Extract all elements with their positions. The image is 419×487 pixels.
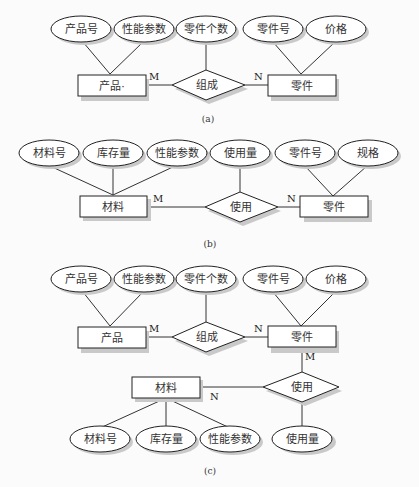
cardinality-m: M [153,193,163,204]
entity-material: 材料 [132,377,203,402]
svg-text:产品号: 产品号 [65,272,98,286]
entity-product: 产品 [78,327,149,353]
er-diagram-figure: 产品号 性能参数 零件个数 零件号 价格 产品· [0,0,419,487]
svg-text:零件号: 零件号 [257,23,290,36]
relationship-use: 使用 [263,372,342,406]
attr-price: 价格 [306,16,369,45]
attr-part-no: 零件号 [243,266,306,295]
attr-stock: 库存量 [83,140,146,169]
cardinality-use-n: N [210,391,219,402]
svg-text:产品号: 产品号 [65,22,98,36]
svg-text:零件: 零件 [291,80,313,93]
attr-usage: 使用量 [272,426,336,455]
svg-text:零件号: 零件号 [257,273,290,286]
svg-text:零件个数: 零件个数 [184,23,228,36]
svg-text:零件: 零件 [291,331,313,344]
cardinality-m: M [149,71,159,82]
svg-text:库存量: 库存量 [97,146,130,160]
svg-text:组成: 组成 [196,330,218,344]
attr-spec: 规格 [338,140,401,169]
caption-a: (a) [202,114,214,124]
attr-product-no: 产品号 [51,16,114,45]
attr-part-no: 零件号 [275,140,338,169]
svg-text:价格: 价格 [325,22,347,36]
attr-part-count: 零件个数 [176,266,239,295]
svg-text:产品·: 产品· [99,79,125,93]
svg-text:使用: 使用 [291,381,313,394]
svg-text:零件号: 零件号 [289,147,322,160]
attr-part-no: 零件号 [243,16,306,45]
relationship-use: 使用 [205,192,281,226]
svg-text:零件个数: 零件个数 [184,273,228,286]
entity-material: 材料 [80,196,151,221]
relationship-compose: 组成 [172,70,248,104]
svg-text:零件: 零件 [323,201,345,214]
cardinality-n: N [287,193,296,204]
svg-text:性能参数: 性能参数 [155,146,199,160]
entity-part: 零件 [300,196,372,222]
cardinality-use-m: M [305,351,315,362]
attr-material-no: 材料号 [19,140,82,169]
attr-product-no: 产品号 [51,266,114,295]
attr-perf-params: 性能参数 [114,266,177,295]
attr-perf-params: 性能参数 [147,140,210,169]
attr-stock: 库存量 [136,426,199,455]
entity-part: 零件 [268,326,339,353]
svg-text:性能参数: 性能参数 [122,22,166,36]
attr-price: 价格 [306,266,369,295]
cardinality-compose-n: N [254,323,263,334]
caption-b: (b) [204,239,217,249]
diagram-c: 产品号 性能参数 零件个数 零件号 价格 产品 [51,266,369,476]
relationship-compose: 组成 [172,322,248,356]
cardinality-n: N [254,71,263,82]
entity-product: 产品· [78,75,149,101]
attr-material-perf-params: 性能参数 [200,426,263,455]
svg-text:材料: 材料 [102,200,124,214]
svg-text:性能参数: 性能参数 [122,272,166,286]
svg-text:材料号: 材料号 [84,432,117,446]
svg-text:性能参数: 性能参数 [208,432,252,446]
svg-text:使用量: 使用量 [224,147,257,160]
attr-usage: 使用量 [210,140,273,169]
attr-perf-params: 性能参数 [114,16,177,45]
svg-text:组成: 组成 [196,78,218,92]
caption-c: (c) [204,466,216,476]
svg-text:使用: 使用 [230,201,252,214]
svg-text:材料号: 材料号 [33,146,66,160]
diagram-a: 产品号 性能参数 零件个数 零件号 价格 产品· [51,16,369,124]
cardinality-compose-m: M [149,323,159,334]
svg-text:使用量: 使用量 [286,433,319,446]
entity-part: 零件 [268,75,339,101]
attr-part-count: 零件个数 [176,16,239,45]
svg-text:价格: 价格 [325,272,347,286]
diagram-b: 材料号 库存量 性能参数 使用量 零件号 规格 [19,140,401,249]
svg-text:产品: 产品 [101,331,123,345]
svg-text:材料: 材料 [155,381,177,395]
svg-text:规格: 规格 [357,146,379,160]
attr-material-no: 材料号 [70,426,133,455]
svg-text:库存量: 库存量 [150,432,183,446]
